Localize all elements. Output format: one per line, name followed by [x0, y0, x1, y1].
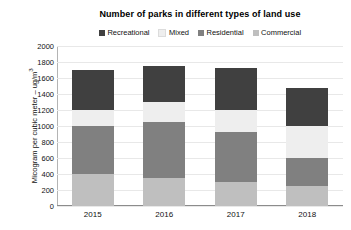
chart-container: Number of parks in different types of la…	[0, 0, 351, 230]
y-tick-label: 400	[14, 170, 54, 179]
y-tick-label: 0	[14, 202, 54, 211]
x-tick-label-2017: 2017	[206, 210, 266, 219]
bar-group-2018[interactable]	[286, 46, 328, 206]
bar-group-2015[interactable]	[72, 46, 114, 206]
y-tick-label: 200	[14, 186, 54, 195]
bar-segment-commercial[interactable]	[215, 182, 257, 206]
bar-segment-commercial[interactable]	[72, 174, 114, 206]
legend-item-label: Residential	[207, 28, 244, 37]
bar-group-2016[interactable]	[143, 46, 185, 206]
legend-swatch-icon	[99, 30, 105, 36]
y-tick-label: 1600	[14, 74, 54, 83]
bar-segment-recreational[interactable]	[72, 70, 114, 110]
bar-segment-residential[interactable]	[143, 122, 185, 178]
bar-segment-recreational[interactable]	[286, 88, 328, 126]
y-axis-tick-labels: 2000180016001400120010008006004002000	[12, 46, 54, 206]
legend-swatch-icon	[253, 30, 259, 36]
bar-segment-residential[interactable]	[72, 126, 114, 174]
bar-segment-commercial[interactable]	[143, 178, 185, 206]
bar-segment-mixed[interactable]	[72, 110, 114, 126]
y-tick-label: 2000	[14, 42, 54, 51]
bar-segment-commercial[interactable]	[286, 186, 328, 206]
chart-title: Number of parks in different types of la…	[55, 9, 345, 19]
y-tick-label: 1200	[14, 106, 54, 115]
bar-segment-residential[interactable]	[215, 132, 257, 182]
x-tick-label-2018: 2018	[277, 210, 337, 219]
legend-item-mixed[interactable]: Mixed	[158, 28, 189, 37]
x-tick-label-2015: 2015	[63, 210, 123, 219]
y-tick-label: 600	[14, 154, 54, 163]
bar-segment-mixed[interactable]	[215, 110, 257, 132]
plot-area	[57, 46, 343, 206]
legend-item-label: Commercial	[261, 28, 301, 37]
legend-item-recreational[interactable]: Recreational	[99, 28, 150, 37]
x-tick-label-2016: 2016	[134, 210, 194, 219]
y-tick-label: 800	[14, 138, 54, 147]
legend-item-label: Mixed	[169, 28, 189, 37]
y-tick-label: 1400	[14, 90, 54, 99]
y-tick-label: 1800	[14, 58, 54, 67]
bar-segment-recreational[interactable]	[143, 66, 185, 102]
bar-segment-residential[interactable]	[286, 158, 328, 186]
legend-swatch-icon	[198, 30, 204, 36]
legend-swatch-icon	[158, 29, 166, 37]
grid-line	[57, 206, 343, 207]
legend-item-residential[interactable]: Residential	[198, 28, 244, 37]
y-tick-label: 1000	[14, 122, 54, 131]
legend-item-commercial[interactable]: Commercial	[253, 28, 302, 37]
bar-segment-mixed[interactable]	[143, 102, 185, 122]
legend-item-label: Recreational	[107, 28, 149, 37]
bar-segment-mixed[interactable]	[286, 126, 328, 158]
bar-group-2017[interactable]	[215, 46, 257, 206]
bar-segment-recreational[interactable]	[215, 68, 257, 110]
chart-legend: RecreationalMixedResidentialCommercial	[55, 28, 345, 37]
